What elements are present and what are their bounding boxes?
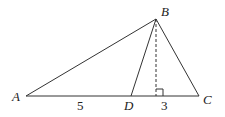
segment-bc — [156, 19, 199, 96]
length-ad: 5 — [77, 98, 84, 113]
label-b: B — [161, 4, 169, 19]
segment-ab — [26, 19, 156, 96]
segment-bd — [131, 19, 156, 96]
label-c: C — [203, 92, 212, 107]
diagram-svg: A B C D 5 3 — [0, 0, 225, 117]
triangle-diagram: A B C D 5 3 — [0, 0, 225, 117]
label-d: D — [123, 98, 134, 113]
right-angle-marker — [156, 89, 163, 96]
label-a: A — [11, 89, 20, 104]
length-dc: 3 — [161, 98, 168, 113]
